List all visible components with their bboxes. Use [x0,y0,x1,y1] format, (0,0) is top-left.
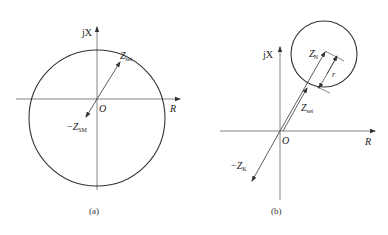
radius-extension-top [325,51,344,61]
neg-zsm-label-a: −ZSM [67,121,88,133]
zn-vector-b [280,52,325,131]
impedance-diagrams: jX R O Zset −ZSM (a) jX R O Z'N r Zset −… [0,0,388,235]
neg-zsm-vector-a [86,99,97,117]
caption-b: (b) [271,206,282,216]
neg-zk-label-b: −ZK [231,160,247,172]
caption-a: (a) [89,206,99,216]
figure-b: jX R O Z'N r Zset −ZK (b) [220,21,375,216]
jx-label-b: jX [262,49,274,60]
zset-label-b: Zset [301,102,314,114]
zset-label-a: Zset [120,50,133,62]
origin-label-b: O [282,135,289,146]
origin-label-a: O [99,103,106,114]
r-label-a: R [169,103,176,114]
zn-label-b: Z'N [309,48,319,60]
figure-a: jX R O Zset −ZSM (a) [16,27,180,216]
jx-label-a: jX [81,27,93,38]
zset-vector-a [97,62,120,99]
neg-zk-vector-b [252,131,280,181]
r-label-b: R [364,136,371,147]
radius-label-b: r [332,70,336,79]
